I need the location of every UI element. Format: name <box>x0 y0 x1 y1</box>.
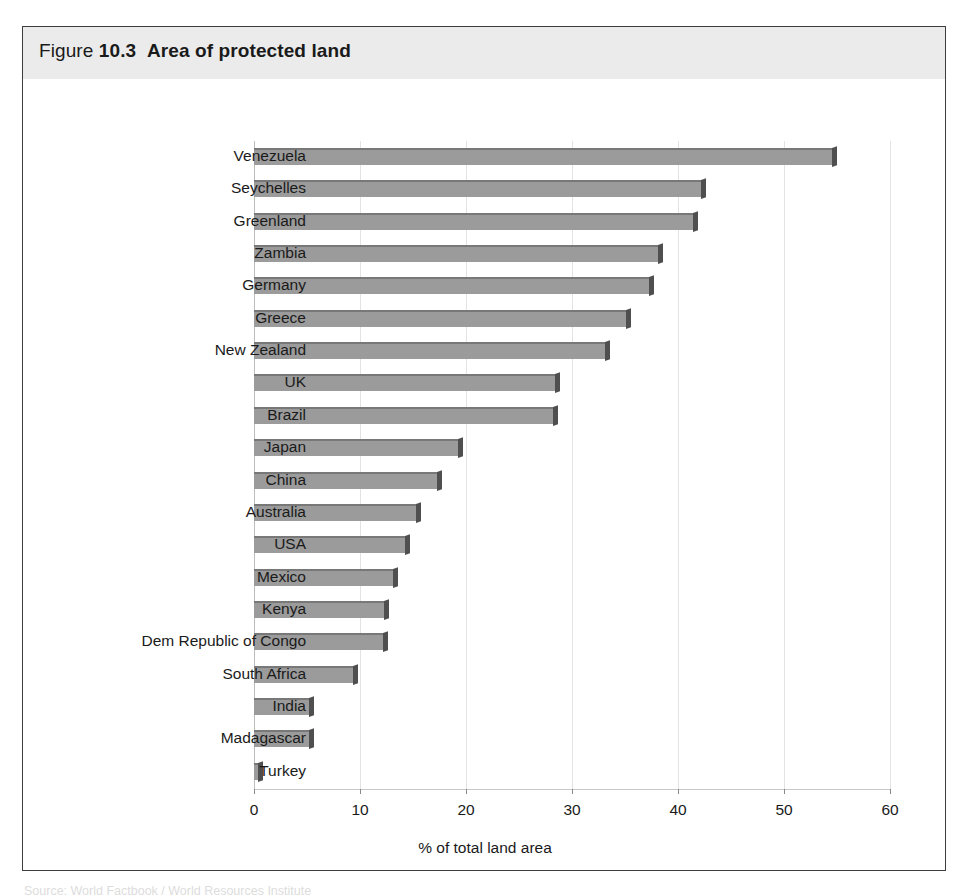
bar-row <box>254 400 890 432</box>
bar-row <box>254 367 890 399</box>
bar-zambia <box>254 245 658 262</box>
category-label: Japan <box>6 438 306 456</box>
bar-end-cap <box>437 470 442 491</box>
figure-panel: Figure 10.3 Area of protected land Venez… <box>22 26 946 871</box>
figure-caption: Area of protected land <box>147 40 351 61</box>
bar-end-cap <box>555 373 560 394</box>
category-label: Brazil <box>6 406 306 424</box>
tick-mark-40 <box>678 789 679 794</box>
category-label: Dem Republic of Congo <box>6 632 306 650</box>
tick-label-50: 50 <box>764 801 804 819</box>
bar-row <box>254 206 890 238</box>
category-label: New Zealand <box>6 341 306 359</box>
bar-row <box>254 529 890 561</box>
figure-title-band: Figure 10.3 Area of protected land <box>23 27 945 79</box>
source-note: Source: World Factbook / World Resources… <box>24 884 944 896</box>
bar-end-cap <box>658 243 663 264</box>
category-label: Greenland <box>6 212 306 230</box>
figure-page: Figure 10.3 Area of protected land Venez… <box>0 0 962 896</box>
plot-area <box>254 141 890 789</box>
bar-row <box>254 659 890 691</box>
bar-row <box>254 562 890 594</box>
bar-row <box>254 141 890 173</box>
tick-label-0: 0 <box>234 801 274 819</box>
category-label: Venezuela <box>6 147 306 165</box>
bar-end-cap <box>701 179 706 200</box>
bar-row <box>254 465 890 497</box>
bar-row <box>254 626 890 658</box>
bar-venezuela <box>254 148 832 165</box>
bar-row <box>254 691 890 723</box>
tick-label-60: 60 <box>870 801 910 819</box>
x-axis-title: % of total land area <box>23 839 947 857</box>
bar-end-cap <box>309 728 314 749</box>
bar-row <box>254 303 890 335</box>
bar-greece <box>254 310 626 327</box>
page-title: Figure 10.3 Area of protected land <box>39 40 351 62</box>
bar-row <box>254 173 890 205</box>
gridline-60 <box>890 141 891 789</box>
bar-end-cap <box>416 502 421 523</box>
tick-mark-0 <box>254 789 255 794</box>
bar-end-cap <box>693 211 698 232</box>
tick-label-30: 30 <box>552 801 592 819</box>
bar-row <box>254 723 890 755</box>
tick-mark-60 <box>890 789 891 794</box>
bar-end-cap <box>393 567 398 588</box>
figure-label-lead: Figure <box>39 40 93 61</box>
tick-mark-10 <box>360 789 361 794</box>
figure-number: 10.3 <box>99 40 136 61</box>
bar-end-cap <box>353 664 358 685</box>
tick-mark-50 <box>784 789 785 794</box>
bar-row <box>254 432 890 464</box>
tick-label-20: 20 <box>446 801 486 819</box>
tick-label-10: 10 <box>340 801 380 819</box>
category-label: Turkey <box>6 762 306 780</box>
bar-chart: VenezuelaSeychellesGreenlandZambiaGerman… <box>23 79 947 870</box>
category-label: Zambia <box>6 244 306 262</box>
category-label: Kenya <box>6 600 306 618</box>
tick-mark-30 <box>572 789 573 794</box>
bar-row <box>254 238 890 270</box>
bar-end-cap <box>553 405 558 426</box>
category-label: India <box>6 697 306 715</box>
category-label: Mexico <box>6 568 306 586</box>
bar-seychelles <box>254 180 701 197</box>
bar-end-cap <box>832 146 837 167</box>
category-label: USA <box>6 535 306 553</box>
category-label: Seychelles <box>6 179 306 197</box>
category-label: UK <box>6 373 306 391</box>
category-label: Germany <box>6 276 306 294</box>
bar-row <box>254 335 890 367</box>
category-label: China <box>6 471 306 489</box>
bar-germany <box>254 277 649 294</box>
bar-end-cap <box>626 308 631 329</box>
bar-row <box>254 270 890 302</box>
bar-row <box>254 497 890 529</box>
bar-end-cap <box>383 631 388 652</box>
bar-end-cap <box>649 276 654 297</box>
category-label: Australia <box>6 503 306 521</box>
bar-row <box>254 756 890 788</box>
bar-row <box>254 594 890 626</box>
category-label: Greece <box>6 309 306 327</box>
bar-new-zealand <box>254 342 605 359</box>
tick-label-40: 40 <box>658 801 698 819</box>
category-label: Madagascar <box>6 729 306 747</box>
tick-mark-20 <box>466 789 467 794</box>
category-label: South Africa <box>6 665 306 683</box>
bar-end-cap <box>405 534 410 555</box>
bar-end-cap <box>384 599 389 620</box>
bar-greenland <box>254 213 693 230</box>
bar-end-cap <box>458 437 463 458</box>
bar-end-cap <box>309 696 314 717</box>
bar-end-cap <box>605 340 610 361</box>
